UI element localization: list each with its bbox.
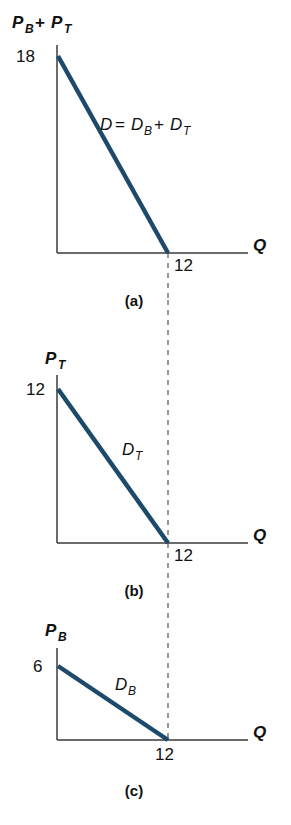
panel-a-curve-label: D = D B + D T: [100, 115, 192, 138]
panel-a-y-axis-title: P B + P T: [12, 13, 73, 36]
panel-a-y-title-sub2: T: [64, 22, 73, 36]
panel-b-x-axis-title: Q: [253, 526, 266, 545]
panel-c: P B 6 D B 12 Q (c): [33, 621, 266, 799]
panel-a-demand-curve: [58, 56, 168, 253]
panel-a-curve-label-d: D: [100, 115, 112, 134]
panel-b-demand-curve: [58, 389, 168, 543]
panel-a-x-axis-title: Q: [253, 236, 266, 255]
panel-a-curve-label-eq: =: [115, 115, 125, 134]
panel-b-y-title-p: P: [45, 349, 57, 368]
panel-b-curve-label: D T: [122, 440, 144, 463]
panel-c-y-title-sub: B: [58, 630, 67, 644]
panel-b-y-axis-title: P T: [45, 349, 67, 372]
panel-b: P T 12 D T 12 Q (b): [26, 349, 266, 599]
figure-canvas: P B + P T 18 D = D B + D T: [0, 0, 291, 825]
panel-a-curve-label-plus: +: [154, 115, 164, 134]
panel-c-y-tick-label: 6: [33, 657, 42, 676]
panel-a-curve-label-dt: D: [170, 115, 182, 134]
panel-b-curve-label-sub: T: [135, 449, 144, 463]
panel-a-curve-label-db-sub: B: [144, 124, 152, 138]
panel-b-y-tick-label: 12: [26, 380, 45, 399]
panel-c-x-axis-title: Q: [253, 723, 266, 742]
demand-curve-figure: P B + P T 18 D = D B + D T: [0, 0, 291, 825]
panel-c-y-title-p: P: [45, 621, 57, 640]
panel-a-y-title-plus: +: [35, 13, 45, 32]
panel-c-y-axis-title: P B: [45, 621, 67, 644]
panel-a-y-tick-label: 18: [16, 47, 35, 66]
panel-b-x-tick-label: 12: [174, 546, 193, 565]
panel-a-curve-label-dt-sub: T: [183, 124, 192, 138]
panel-a-y-title-p1: P: [12, 13, 24, 32]
panel-c-demand-curve: [58, 666, 168, 740]
panel-a-caption: (a): [125, 292, 143, 309]
panel-c-curve-label-base: D: [115, 675, 127, 694]
panel-a-y-title-sub1: B: [25, 22, 34, 36]
panel-b-curve-label-base: D: [122, 440, 134, 459]
panel-a: P B + P T 18 D = D B + D T: [12, 13, 266, 309]
panel-c-curve-label-sub: B: [128, 684, 136, 698]
panel-a-x-tick-label: 12: [174, 256, 193, 275]
panel-b-caption: (b): [124, 582, 143, 599]
panel-a-curve-label-db: D: [131, 115, 143, 134]
panel-a-y-title-p2: P: [51, 13, 63, 32]
panel-b-y-title-sub: T: [58, 358, 67, 372]
panel-c-x-tick-label: 12: [155, 745, 174, 764]
panel-c-curve-label: D B: [115, 675, 136, 698]
panel-c-caption: (c): [125, 782, 143, 799]
